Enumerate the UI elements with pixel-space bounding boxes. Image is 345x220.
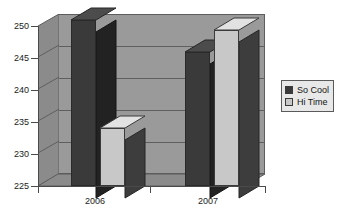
- y-tick-225: [31, 186, 38, 187]
- y-tick-235: [31, 122, 38, 123]
- legend-swatch-so-cool: [285, 86, 293, 94]
- bar-front-face: [214, 30, 239, 186]
- legend-label-hi-time: Hi Time: [297, 97, 328, 107]
- y-tick-240: [31, 90, 38, 91]
- bar-side-face: [239, 30, 260, 186]
- x-axis-line: [38, 186, 266, 187]
- y-tick-230: [31, 154, 38, 155]
- x-tick-mid: [150, 186, 151, 193]
- x-axis-label-2006: 2006: [85, 196, 105, 206]
- bar-2007-so-cool: [185, 52, 210, 186]
- x-tick-end: [265, 186, 266, 193]
- y-axis-line: [38, 26, 39, 186]
- y-tick-250: [31, 26, 38, 27]
- bar-2006-hi-time: [100, 128, 125, 186]
- legend: So Cool Hi Time: [281, 80, 334, 112]
- y-axis-label-240: 240: [14, 86, 29, 95]
- y-axis-label-250: 250: [14, 22, 29, 31]
- legend-label-so-cool: So Cool: [297, 85, 329, 95]
- legend-item-hi-time: Hi Time: [285, 96, 329, 108]
- y-axis-label-225: 225: [14, 182, 29, 191]
- y-axis-label-230: 230: [14, 150, 29, 159]
- bar-front-face: [71, 20, 96, 186]
- bar-chart: 250 245 240 235 230 225 2006 2007 So Coo…: [0, 0, 345, 220]
- y-tick-245: [31, 58, 38, 59]
- bar-front-face: [185, 52, 210, 186]
- y-axis-label-235: 235: [14, 118, 29, 127]
- bar-front-face: [100, 128, 125, 186]
- x-tick-start: [38, 186, 39, 193]
- y-axis-label-245: 245: [14, 54, 29, 63]
- y-axis: 250 245 240 235 230 225: [0, 0, 38, 220]
- bar-2007-hi-time: [214, 30, 239, 186]
- bar-2006-so-cool: [71, 20, 96, 186]
- legend-swatch-hi-time: [285, 98, 293, 106]
- bar-side-face: [125, 128, 146, 186]
- legend-item-so-cool: So Cool: [285, 84, 329, 96]
- x-axis-label-2007: 2007: [198, 196, 218, 206]
